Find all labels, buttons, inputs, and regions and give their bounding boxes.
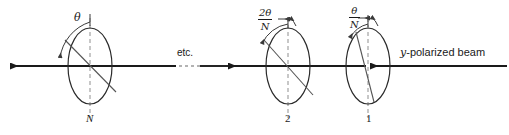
polarizer-2-label-arc [290,18,296,26]
polarizer-N-angle-label: θ [74,12,81,23]
polarizer-1-transmission-axis [356,32,374,102]
polarizer-1-bottom-label: 1 [366,113,372,124]
beam-label-text: -polarized beam [406,46,485,58]
polarizer-1-label-arc [371,17,378,26]
polarizer-1-angle-numerator: θ [349,6,360,17]
polarizer-chain-figure: θ N 2θ N 2 θ N 1 etc. y-polarized beam [0,0,509,135]
polarizer-1-fraction-bar [349,17,360,18]
beam-label: y-polarized beam [400,47,485,58]
polarizer-2-group [262,17,313,118]
etc-label: etc. [177,48,193,58]
polarizer-2-angle-numerator: 2θ [258,8,272,19]
polarizer-N-bottom-label: N [86,113,93,124]
polarizer-1-angle-fraction: θ N [349,6,360,30]
polarizer-N-angle-arc [60,22,90,58]
polarizer-2-angle-fraction: 2θ N [258,8,272,32]
polarizer-2-angle-denominator: N [258,21,272,32]
polarizer-1-angle-denominator: N [349,19,360,30]
polarizer-2-bottom-label: 2 [285,113,291,124]
polarizer-2-fraction-bar [258,19,272,20]
